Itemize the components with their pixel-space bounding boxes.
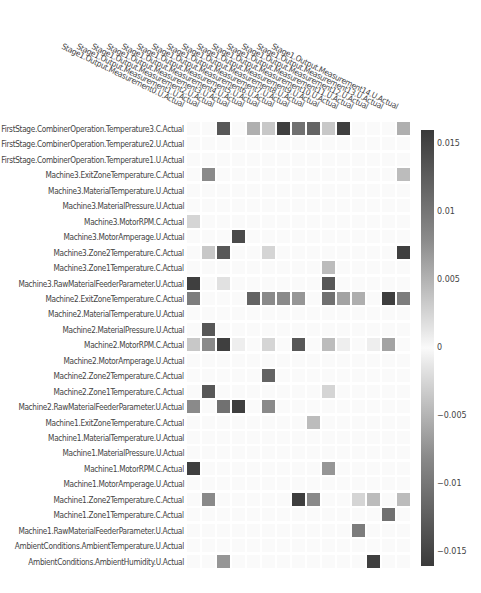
y-tick-label: Machine3.RawMaterialFeederParameter.U.Ac… (19, 279, 184, 289)
heatmap-cell (382, 261, 395, 274)
heatmap-cell (307, 246, 320, 259)
heatmap-cell (322, 153, 335, 166)
heatmap-cell (187, 184, 200, 197)
heatmap-cell (187, 477, 200, 490)
heatmap-cell (202, 369, 215, 382)
heatmap-cell (322, 354, 335, 367)
heatmap-cell (307, 215, 320, 228)
y-tick-label: Machine2.MotorRPM.C.Actual (84, 340, 184, 350)
heatmap-cell (217, 508, 230, 521)
heatmap-cell (187, 385, 200, 398)
heatmap-cell (292, 539, 305, 552)
heatmap-cell (337, 462, 350, 475)
heatmap-cell (382, 277, 395, 290)
heatmap-cell (277, 215, 290, 228)
heatmap-cell (247, 524, 260, 537)
y-tick-label: Machine3.MaterialTemperature.U.Actual (48, 186, 184, 196)
heatmap-cell (367, 508, 380, 521)
heatmap-cell (202, 246, 215, 259)
heatmap-cell (382, 215, 395, 228)
heatmap-cell (382, 555, 395, 568)
heatmap-cell (277, 416, 290, 429)
heatmap-cell (217, 555, 230, 568)
heatmap-cell (232, 307, 245, 320)
heatmap-cell (367, 493, 380, 506)
heatmap-cell (202, 261, 215, 274)
heatmap-cell (262, 400, 275, 413)
heatmap-cell (187, 354, 200, 367)
heatmap-cell (232, 477, 245, 490)
heatmap-cell (277, 323, 290, 336)
heatmap-cell (217, 524, 230, 537)
colorbar-tick-label: −0.015 (437, 547, 467, 556)
heatmap-cell (217, 354, 230, 367)
heatmap-cell (367, 524, 380, 537)
heatmap-cell (262, 462, 275, 475)
heatmap-cell (247, 277, 260, 290)
heatmap-cell (217, 446, 230, 459)
heatmap-cell (307, 277, 320, 290)
heatmap-cell (202, 277, 215, 290)
heatmap-cell (307, 524, 320, 537)
heatmap-cell (217, 292, 230, 305)
heatmap-cell (337, 307, 350, 320)
heatmap-cell (202, 307, 215, 320)
heatmap-cell (367, 199, 380, 212)
heatmap-cell (217, 323, 230, 336)
heatmap-cell (202, 477, 215, 490)
heatmap-cell (217, 493, 230, 506)
heatmap-cell (262, 524, 275, 537)
heatmap-cell (352, 462, 365, 475)
heatmap-cell (382, 508, 395, 521)
heatmap-cell (202, 416, 215, 429)
heatmap-cell (187, 246, 200, 259)
heatmap-cell (277, 493, 290, 506)
heatmap-cell (307, 493, 320, 506)
heatmap-cell (367, 292, 380, 305)
heatmap-cell (322, 215, 335, 228)
y-tick-label: AmbientConditions.AmbientHumidity.U.Actu… (28, 557, 184, 567)
heatmap-cell (397, 508, 410, 521)
heatmap-cell (277, 400, 290, 413)
heatmap-cell (337, 446, 350, 459)
heatmap-cell (262, 493, 275, 506)
heatmap-cell (277, 508, 290, 521)
heatmap-cell (202, 539, 215, 552)
heatmap-cell (292, 153, 305, 166)
heatmap-cell (217, 153, 230, 166)
heatmap-cell (292, 230, 305, 243)
y-tick-label: Machine3.Zone2Temperature.C.Actual (54, 248, 184, 258)
heatmap-cell (277, 446, 290, 459)
heatmap-cell (367, 215, 380, 228)
heatmap-cell (187, 462, 200, 475)
heatmap-cell (217, 261, 230, 274)
heatmap-cell (277, 477, 290, 490)
heatmap-cell (307, 199, 320, 212)
y-tick-label: Machine1.RawMaterialFeederParameter.U.Ac… (19, 526, 184, 536)
heatmap-cell (262, 246, 275, 259)
y-tick-label: Machine3.Zone1Temperature.C.Actual (54, 263, 184, 273)
heatmap-cell (262, 137, 275, 150)
heatmap-cell (382, 354, 395, 367)
heatmap-cell (337, 277, 350, 290)
heatmap-cell (232, 230, 245, 243)
heatmap-cell (337, 493, 350, 506)
heatmap-cell (322, 524, 335, 537)
heatmap-cell (247, 137, 260, 150)
heatmap-cell (382, 168, 395, 181)
heatmap-cell (322, 416, 335, 429)
heatmap-cell (397, 416, 410, 429)
heatmap-cell (202, 493, 215, 506)
heatmap-cell (337, 292, 350, 305)
heatmap-cell (277, 277, 290, 290)
heatmap-cell (262, 215, 275, 228)
heatmap-cell (277, 246, 290, 259)
heatmap-cell (247, 369, 260, 382)
heatmap-cell (322, 168, 335, 181)
heatmap-cell (307, 354, 320, 367)
heatmap-cell (187, 153, 200, 166)
heatmap-cell (247, 539, 260, 552)
heatmap-cell (367, 338, 380, 351)
heatmap-cell (397, 555, 410, 568)
heatmap-cell (262, 168, 275, 181)
